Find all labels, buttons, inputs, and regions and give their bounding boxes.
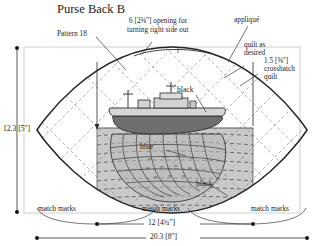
opening-note-line2: turning right side out	[127, 26, 188, 34]
svg-text:oo: oo	[162, 155, 166, 159]
black-label-top: black	[177, 86, 193, 95]
svg-text:oo: oo	[176, 154, 180, 158]
dimension-height: 12.3 [5"]	[3, 125, 30, 134]
crosshatch-note-line3: quilt	[264, 73, 277, 81]
svg-text:oo: oo	[146, 166, 150, 170]
applique-label: appliqué	[234, 16, 259, 24]
svg-text:oo: oo	[154, 175, 158, 179]
quilt-note-line2: desired	[244, 49, 265, 57]
svg-text:oo: oo	[182, 174, 186, 178]
blue-label: blue	[140, 143, 153, 152]
svg-text:oo: oo	[148, 157, 152, 161]
black-label-bottom: black	[196, 180, 212, 189]
match-marks-center: match marks	[142, 205, 180, 213]
dimension-inner-width: 12 [4¾"]	[148, 219, 175, 228]
pattern-diagram: oo oo oo oo oo oo oo oo oo oo oo	[0, 0, 324, 246]
svg-text:oo: oo	[188, 166, 192, 170]
svg-text:oo: oo	[174, 164, 178, 168]
svg-text:oo: oo	[160, 165, 164, 169]
svg-text:oo: oo	[168, 174, 172, 178]
pattern-number-label: Pattern 18	[57, 30, 87, 38]
opening-note-line1: 6 [2⅜"] opening for	[129, 17, 187, 25]
match-marks-left: match marks	[38, 205, 76, 213]
svg-text:oo: oo	[190, 156, 194, 160]
dimension-total-width: 20.3 [8"]	[150, 233, 177, 242]
match-marks-right: match marks	[251, 205, 289, 213]
page-title: Purse Back B	[57, 2, 125, 16]
